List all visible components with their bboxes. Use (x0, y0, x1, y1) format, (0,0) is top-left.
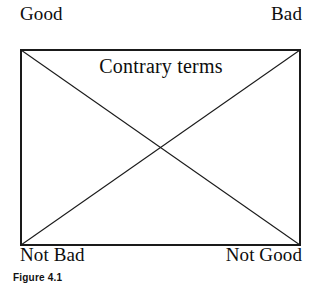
corner-label-bad: Bad (271, 3, 302, 25)
contrary-terms-label: Contrary terms (21, 54, 301, 78)
corner-label-not-good: Not Good (226, 244, 302, 266)
figure-container: Good Bad Contrary terms Not Bad Not Good… (0, 0, 328, 298)
corner-label-good: Good (20, 3, 63, 25)
figure-caption: Figure 4.1 (13, 272, 62, 284)
corner-label-not-bad: Not Bad (20, 244, 85, 266)
